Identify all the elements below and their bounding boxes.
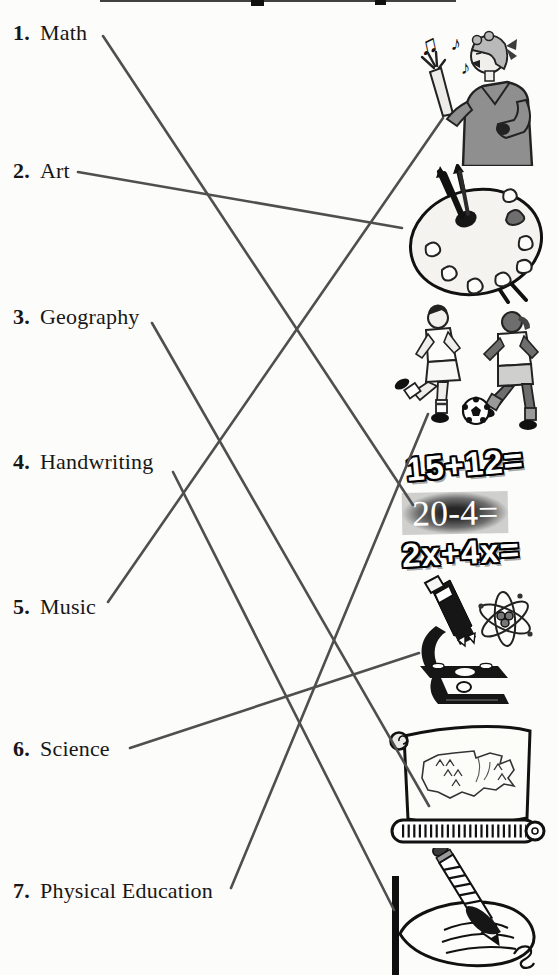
- microscope-mirror: [457, 682, 471, 692]
- scroll-end: [526, 822, 544, 840]
- page-margin-bar: [392, 876, 399, 975]
- subject-item-geography: 3.Geography: [13, 304, 140, 330]
- subject-label: Science: [40, 736, 110, 761]
- match-line-handwriting: [173, 472, 394, 910]
- equation-line-2: 20-4=: [402, 491, 509, 535]
- closed-eye: [476, 53, 481, 54]
- soccer-ball-icon: [462, 397, 490, 425]
- picture-microscope-atom: [380, 574, 558, 708]
- subject-label: Music: [40, 594, 96, 619]
- hand-writing-illustration: [380, 848, 558, 975]
- subject-label: Math: [40, 20, 87, 45]
- picture-hand-writing: [380, 848, 558, 975]
- subject-item-handwriting: 4.Handwriting: [13, 449, 153, 475]
- match-line-science: [130, 653, 419, 748]
- hair-curl: [473, 36, 482, 45]
- microscope-icon: [420, 576, 509, 704]
- subject-number: 1.: [13, 20, 40, 46]
- picture-map-scroll: [378, 698, 552, 858]
- match-line-art: [78, 172, 402, 228]
- neck: [485, 71, 494, 81]
- subject-item-math: 1.Math: [13, 20, 87, 46]
- woman-singing-illustration: ♫ ♪ ♪: [375, 16, 553, 166]
- soccer-player-left: [393, 304, 460, 423]
- raised-arm: [430, 68, 453, 116]
- hand-on-chest: [496, 123, 510, 135]
- soccer-players-illustration: [376, 298, 556, 443]
- equation-line-1: 15+12=: [404, 437, 558, 490]
- microscope-atom-illustration: [380, 574, 558, 708]
- subject-label: Geography: [40, 304, 140, 329]
- subject-label: Physical Education: [40, 878, 213, 903]
- paint-palette-illustration: [396, 164, 556, 304]
- subject-number: 3.: [13, 304, 40, 330]
- subject-item-physical-education: 7.Physical Education: [13, 878, 213, 904]
- subject-number: 2.: [13, 158, 40, 184]
- equation-line-3: 2x+4x=: [401, 528, 558, 576]
- subject-number: 4.: [13, 449, 40, 475]
- subject-number: 7.: [13, 878, 40, 904]
- picture-math-equations: 15+12= 20-4= 2x+4x=: [402, 450, 558, 576]
- subject-number: 5.: [13, 594, 40, 620]
- subject-number: 6.: [13, 736, 40, 762]
- worksheet-page: 1.Math 2.Art 3.Geography 4.Handwriting 5…: [0, 0, 558, 975]
- subject-item-music: 5.Music: [13, 594, 96, 620]
- microscope-arm: [422, 626, 446, 666]
- picture-woman-singing: ♫ ♪ ♪: [375, 16, 553, 166]
- music-note-icon: ♪: [461, 57, 471, 78]
- subject-item-art: 2.Art: [13, 158, 70, 184]
- music-note-icon: ♪: [450, 32, 463, 55]
- subject-item-science: 6.Science: [13, 736, 110, 762]
- picture-soccer-players: [376, 298, 556, 443]
- subject-label: Art: [40, 158, 70, 183]
- subject-label: Handwriting: [40, 449, 153, 474]
- hair-curl: [485, 32, 494, 41]
- match-line-math: [103, 36, 413, 505]
- picture-paint-palette: [396, 164, 556, 304]
- atom-icon: [476, 591, 533, 647]
- hair-bow-icon: [506, 39, 517, 50]
- map-scroll-illustration: [378, 698, 552, 858]
